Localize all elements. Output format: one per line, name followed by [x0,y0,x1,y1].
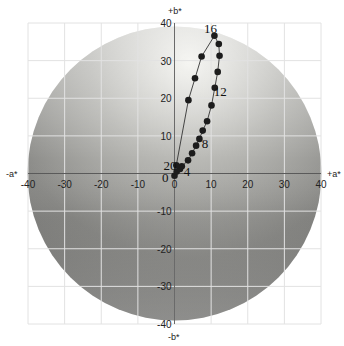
y-tick-label: -10 [157,206,172,217]
x-tick-label: -40 [21,179,36,190]
y-tick-label: -40 [157,319,172,330]
data-point [204,118,211,125]
point-label: 12 [214,84,227,99]
x-tick-label: 20 [242,179,254,190]
data-point [192,75,199,82]
data-point [214,69,221,76]
point-label: 16 [204,21,218,36]
y-tick-label: 40 [160,18,172,29]
data-point [198,53,205,60]
x-tick-label: 10 [206,179,218,190]
data-point [185,157,192,164]
axis-label-plus-b: +b* [168,6,182,16]
data-point [185,97,192,104]
x-tick-label: 40 [315,179,327,190]
x-tick-label: 30 [279,179,291,190]
data-point [216,52,223,59]
axis-label-plus-a: +a* [327,169,341,179]
point-label: 8 [202,136,209,151]
x-tick-label: -20 [94,179,109,190]
data-point [208,102,215,109]
data-point [193,142,200,149]
data-point [199,127,206,134]
lab-ab-chart: -40-30-20-10010203040-40-30-20-101020304… [0,0,344,346]
y-tick-label: -30 [157,281,172,292]
y-tick-label: 10 [160,131,172,142]
x-tick-label: -30 [57,179,72,190]
point-label: 20 [164,158,177,173]
x-tick-label: 0 [172,179,178,190]
data-point [189,150,196,157]
axis-label-minus-b: -b* [168,332,180,342]
y-tick-label: 30 [160,56,172,67]
x-tick-label: -10 [131,179,146,190]
y-tick-label: 20 [160,93,172,104]
axis-label-minus-a: -a* [6,169,18,179]
y-tick-label: -20 [157,244,172,255]
data-point [216,41,223,48]
point-label: 4 [184,164,191,179]
